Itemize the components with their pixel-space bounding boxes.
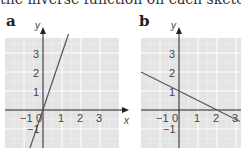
svg-text:x: x xyxy=(123,115,130,126)
svg-text:1: 1 xyxy=(58,112,64,124)
svg-text:2: 2 xyxy=(213,112,219,124)
svg-text:y: y xyxy=(170,20,177,31)
svg-text:1: 1 xyxy=(33,86,39,98)
graph-b: y −1 0 1 2 3 3 2 1 −1 xyxy=(141,20,241,148)
svg-text:−1: −1 xyxy=(163,123,176,135)
graph-a: y x −1 0 1 2 3 3 2 1 −1 xyxy=(5,20,130,148)
svg-text:−1: −1 xyxy=(27,123,40,135)
svg-text:2: 2 xyxy=(169,67,175,79)
svg-text:1: 1 xyxy=(169,86,175,98)
svg-text:3: 3 xyxy=(33,48,39,60)
svg-text:2: 2 xyxy=(77,112,83,124)
svg-text:3: 3 xyxy=(232,112,238,124)
svg-text:3: 3 xyxy=(169,48,175,60)
svg-text:y: y xyxy=(34,20,41,31)
graphs: y x −1 0 1 2 3 3 2 1 −1 xyxy=(0,0,241,157)
svg-text:2: 2 xyxy=(33,67,39,79)
svg-text:1: 1 xyxy=(194,112,200,124)
svg-text:3: 3 xyxy=(96,112,102,124)
